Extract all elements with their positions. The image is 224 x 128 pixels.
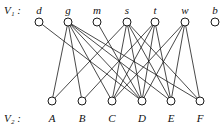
node-label-t: t — [153, 4, 157, 16]
node-label-E: E — [167, 112, 175, 124]
node-g — [64, 18, 72, 26]
node-F — [196, 97, 204, 105]
bipartite-graph: V₁ : V₂ : dgmstwb ABCDEF — [0, 0, 224, 128]
node-label-w: w — [181, 4, 189, 16]
node-label-F: F — [196, 112, 204, 124]
node-w — [181, 18, 189, 26]
node-label-g: g — [65, 4, 71, 16]
set1-nodes: dgmstwb — [35, 4, 219, 26]
node-B — [78, 97, 86, 105]
edge-w-F — [185, 22, 200, 101]
node-label-B: B — [79, 112, 86, 124]
edge-t-E — [155, 22, 171, 101]
node-C — [108, 97, 116, 105]
node-d — [35, 18, 43, 26]
node-D — [138, 97, 146, 105]
node-label-b: b — [212, 4, 218, 16]
set2-label: V₂ : — [4, 112, 21, 124]
edges — [39, 22, 200, 101]
node-label-s: s — [125, 4, 129, 16]
node-E — [167, 97, 175, 105]
set2-nodes: ABCDEF — [48, 97, 204, 124]
edge-s-A — [52, 22, 127, 101]
node-label-D: D — [137, 112, 146, 124]
edge-s-C — [112, 22, 127, 101]
node-A — [48, 97, 56, 105]
node-label-m: m — [93, 4, 101, 16]
node-t — [151, 18, 159, 26]
node-m — [93, 18, 101, 26]
edge-w-E — [171, 22, 185, 101]
node-b — [211, 18, 219, 26]
node-label-A: A — [48, 112, 56, 124]
node-label-C: C — [108, 112, 116, 124]
node-s — [123, 18, 131, 26]
node-label-d: d — [36, 4, 42, 16]
set1-label: V₁ : — [4, 4, 21, 16]
edge-s-D — [127, 22, 142, 101]
